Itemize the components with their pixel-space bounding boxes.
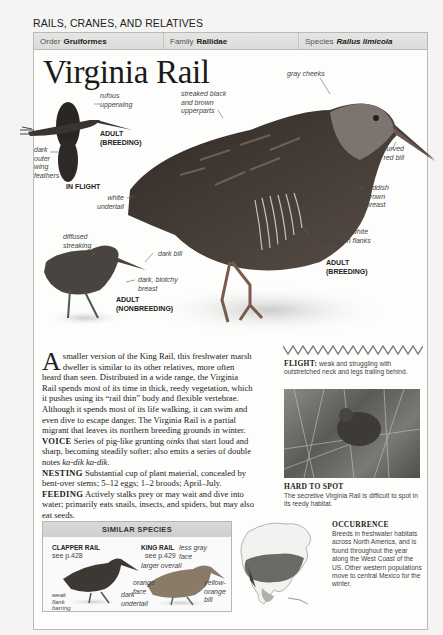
label-diffused-streaking: diffusedstreaking [63, 233, 91, 250]
flight-description: FLIGHT: weak and struggling with outstre… [284, 360, 429, 377]
hard-to-spot-photo [284, 389, 420, 478]
similar-species-header: SIMILAR SPECIES [43, 522, 231, 537]
hard-to-spot-title: HARD TO SPOT [284, 482, 344, 491]
nesting-label: NESTING [42, 468, 83, 478]
breeding-range [245, 554, 304, 583]
drop-cap: A [42, 352, 61, 372]
hard-to-spot-text: The secretive Virginia Rail is difficult… [284, 492, 424, 509]
label-dark-blotchy-breast: dark, blotchybreast [138, 276, 178, 293]
range-map [228, 518, 320, 616]
label-less-gray-face: less grayface [179, 544, 207, 561]
clapper-rail-ref[interactable]: see p.428 [52, 552, 83, 561]
label-rufous-upperwing: rufousupperwing [100, 92, 132, 109]
label-larger-overall: larger overall [141, 562, 181, 571]
flight-pattern-zigzag-icon [283, 343, 423, 357]
feeding-label: FEEDING [42, 489, 83, 499]
label-reddish-brown-breast: reddishbrownbreast [366, 184, 389, 210]
label-weak-flank-barring: weakflankbarring [52, 592, 71, 612]
label-gray-cheeks: gray cheeks [287, 70, 325, 79]
flight-label: FLIGHT: [284, 359, 317, 368]
similar-species-box: SIMILAR SPECIES CLAPPER RAIL see p.428 o… [42, 521, 232, 612]
breeding-bird-illustration [128, 103, 436, 335]
nonbreeding-bird-illustration [44, 245, 146, 326]
caption-adult-nonbreeding: ADULT(NONBREEDING) [116, 296, 173, 313]
occurrence-title: OCCURRENCE [332, 520, 389, 529]
label-barring-on-flanks: black-and-whitebarring on flanks [319, 228, 371, 245]
label-yellow-orange-bill: yellow-orangebill [204, 579, 226, 605]
caption-in-flight: IN FLIGHT [66, 183, 100, 192]
label-white-undertail: whiteundertail [97, 194, 124, 211]
label-dark-undertail: darkundertail [121, 591, 148, 608]
label-dark-bill: dark bill [158, 250, 182, 259]
king-rail-ref[interactable]: see p.429 [145, 552, 176, 561]
description-text: A smaller version of the King Rail, this… [42, 351, 254, 521]
voice-label: VOICE [42, 436, 72, 446]
label-reddish-legs: reddishlegs andtoes [277, 241, 303, 267]
label-curved-red-bill: curvedred bill [383, 145, 404, 162]
caption-flight-adult: ADULT(BREEDING) [100, 130, 142, 147]
label-streaked-upperparts: streaked blackand brownupperparts [181, 90, 226, 116]
occurrence-text: Breeds in freshwater habitats across Nor… [332, 530, 422, 589]
caption-adult-breeding: ADULT(BREEDING) [326, 259, 368, 276]
label-dark-outer-wing: darkouterwingfeathers [34, 146, 59, 180]
intro-paragraph: smaller version of the King Rail, this f… [42, 351, 253, 435]
